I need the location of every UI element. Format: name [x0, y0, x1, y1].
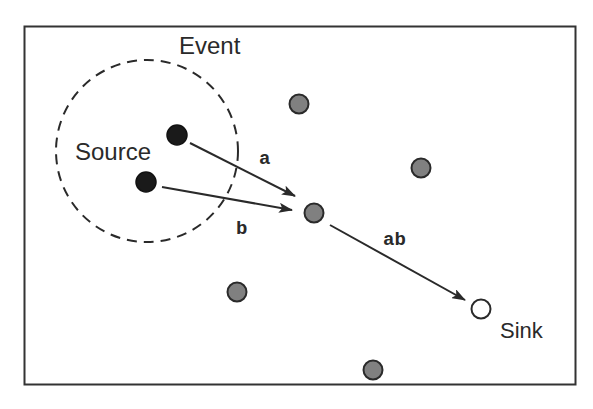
sink-label: Sink [500, 318, 544, 343]
diagram-frame [25, 27, 576, 385]
source-node-2 [136, 172, 156, 192]
relay-node-aggregator [305, 204, 324, 223]
relay-node-3 [228, 283, 247, 302]
event-label: Event [179, 32, 241, 59]
source-node-1 [167, 125, 187, 145]
relay-node-4 [364, 361, 383, 380]
relay-node-2 [412, 159, 431, 178]
sink-node [472, 300, 491, 319]
edge-b-label: b [236, 218, 247, 240]
relay-node-1 [290, 95, 309, 114]
edge-a-arrow [190, 143, 295, 196]
edge-ab-label: ab [383, 229, 406, 251]
data-aggregation-diagram: Event Source Sink a b ab [0, 0, 593, 409]
edge-a-label: a [259, 148, 270, 170]
source-label: Source [75, 138, 151, 165]
edge-b-arrow [162, 187, 292, 210]
